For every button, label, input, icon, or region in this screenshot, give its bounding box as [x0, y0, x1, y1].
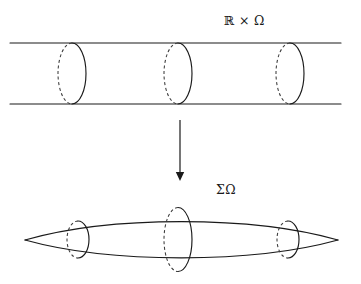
suspension-label: ΣΩ [216, 182, 236, 197]
diagram-canvas [0, 0, 361, 284]
suspension-group [25, 208, 338, 272]
cylinder-cross-section-1-front [72, 43, 86, 104]
cylinder-group [10, 43, 341, 104]
suspension-cross-section-2-front [178, 208, 192, 272]
arrow-head-icon [176, 172, 184, 181]
arrow-group [176, 120, 184, 181]
cylinder-cross-section-3-back [276, 43, 290, 104]
cylinder-cross-section-3-front [290, 43, 304, 104]
suspension-cross-section-3-front [288, 221, 299, 258]
cylinder-cross-section-2-front [178, 43, 192, 104]
suspension-diagram: ℝ × Ω ΣΩ [0, 0, 361, 284]
suspension-cross-section-1-back [67, 221, 78, 258]
cylinder-label: ℝ × Ω [224, 13, 265, 28]
cylinder-cross-section-2-back [164, 43, 178, 104]
suspension-cross-section-3-back [277, 221, 288, 258]
cylinder-cross-section-1-back [58, 43, 72, 104]
suspension-cross-section-2-back [164, 208, 178, 272]
